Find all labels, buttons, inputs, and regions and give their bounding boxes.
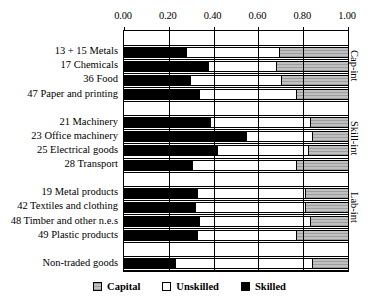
bar-row[interactable]: [124, 202, 348, 213]
gridline: [214, 31, 215, 271]
row-separator: [124, 101, 348, 102]
bar-segment-unskilled: [191, 75, 281, 86]
bar-segment-skilled: [124, 230, 198, 241]
row-separator: [124, 87, 348, 88]
bar-segment-skilled: [124, 131, 247, 142]
bar-rows: [124, 31, 348, 271]
bar-row[interactable]: [124, 75, 348, 86]
bar-segment-unskilled: [209, 61, 276, 72]
bar-segment-capital: [312, 258, 348, 269]
category-label: 25 Electrical goods: [37, 144, 118, 155]
legend-swatch-skilled: [241, 282, 250, 291]
x-tick-label: 0.80: [293, 10, 311, 21]
bar-segment-unskilled: [218, 145, 308, 156]
group-label-cap-int: Cap-int: [349, 50, 360, 82]
x-tick-mark: [303, 27, 304, 31]
bar-segment-capital: [305, 202, 348, 213]
bar-segment-capital: [276, 61, 348, 72]
chart-legend: CapitalUnskilledSkilled: [0, 281, 379, 292]
legend-swatch-unskilled: [162, 282, 171, 291]
bar-row[interactable]: [124, 89, 348, 100]
bar-segment-unskilled: [200, 216, 310, 227]
row-separator: [124, 115, 348, 116]
category-label: 23 Office machinery: [31, 130, 118, 141]
bar-segment-unskilled: [187, 47, 279, 58]
legend-item-skilled[interactable]: Skilled: [241, 281, 286, 292]
row-separator: [124, 200, 348, 201]
legend-label: Unskilled: [176, 281, 219, 292]
row-separator: [124, 45, 348, 46]
x-tick-mark: [214, 27, 215, 31]
x-tick-mark: [348, 27, 349, 31]
legend-label: Skilled: [255, 281, 286, 292]
legend-item-unskilled[interactable]: Unskilled: [162, 281, 219, 292]
bar-segment-skilled: [124, 258, 176, 269]
x-tick-mark: [124, 27, 125, 31]
bar-segment-capital: [296, 89, 348, 100]
x-tick-mark: [169, 27, 170, 31]
category-label: 48 Timber and other n.e.s: [11, 215, 118, 226]
gridline: [303, 31, 304, 271]
x-tick-mark: [258, 27, 259, 31]
x-tick-label: 0.40: [204, 10, 222, 21]
bar-segment-unskilled: [193, 160, 296, 171]
bar-segment-skilled: [124, 145, 218, 156]
bar-segment-capital: [312, 131, 348, 142]
category-label: 36 Food: [83, 73, 118, 84]
bar-row[interactable]: [124, 160, 348, 171]
bar-row[interactable]: [124, 258, 348, 269]
bar-segment-capital: [305, 188, 348, 199]
bar-row[interactable]: [124, 216, 348, 227]
legend-item-capital[interactable]: Capital: [93, 281, 140, 292]
bar-row[interactable]: [124, 145, 348, 156]
row-separator: [124, 59, 348, 60]
row-separator: [124, 242, 348, 243]
bar-segment-capital: [310, 117, 348, 128]
category-label: 47 Paper and printing: [27, 88, 118, 99]
category-label: 19 Metal products: [42, 186, 118, 197]
x-tick-label: 0.60: [249, 10, 267, 21]
legend-swatch-capital: [93, 282, 102, 291]
category-label: 28 Transport: [65, 158, 118, 169]
x-tick-label: 1.00: [338, 10, 356, 21]
bar-segment-capital: [296, 160, 348, 171]
category-label: 42 Textiles and clothing: [17, 200, 118, 211]
bar-segment-capital: [279, 47, 348, 58]
group-labels: Cap-intSkill-intLab-int: [350, 30, 378, 270]
bar-segment-unskilled: [200, 89, 296, 100]
gridline: [169, 31, 170, 271]
row-separator: [124, 143, 348, 144]
bar-row[interactable]: [124, 188, 348, 199]
bar-segment-skilled: [124, 160, 193, 171]
bar-segment-unskilled: [196, 202, 306, 213]
bar-segment-unskilled: [176, 258, 313, 269]
legend-label: Capital: [107, 281, 140, 292]
category-label: 17 Chemicals: [61, 59, 118, 70]
row-separator: [124, 228, 348, 229]
bar-segment-skilled: [124, 202, 196, 213]
bar-row[interactable]: [124, 131, 348, 142]
group-label-skill-int: Skill-int: [349, 121, 360, 155]
row-separator: [124, 73, 348, 74]
bar-segment-capital: [308, 145, 348, 156]
bar-row[interactable]: [124, 230, 348, 241]
bar-segment-capital: [296, 230, 348, 241]
bar-segment-capital: [281, 75, 348, 86]
category-label: 13 + 15 Metals: [55, 45, 118, 56]
row-separator: [124, 214, 348, 215]
category-label: 49 Plastic products: [38, 229, 118, 240]
bar-row[interactable]: [124, 117, 348, 128]
category-label: Non-traded goods: [42, 257, 118, 268]
bar-segment-skilled: [124, 47, 187, 58]
gridline: [258, 31, 259, 271]
row-separator: [124, 129, 348, 130]
bar-segment-unskilled: [211, 117, 310, 128]
bar-row[interactable]: [124, 61, 348, 72]
bar-row[interactable]: [124, 47, 348, 58]
x-tick-label: 0.00: [114, 10, 132, 21]
x-axis-tick-labels: 0.000.200.400.600.801.00: [0, 10, 379, 28]
bar-segment-capital: [310, 216, 348, 227]
group-label-lab-int: Lab-int: [349, 192, 360, 223]
row-separator: [124, 186, 348, 187]
row-separator: [124, 256, 348, 257]
